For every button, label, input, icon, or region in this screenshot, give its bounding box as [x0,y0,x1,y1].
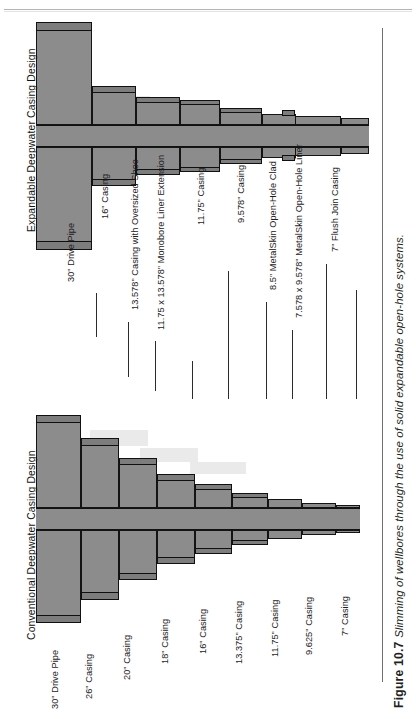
casing-shoe-26in-lower [81,592,119,600]
casing-shoe-18in-upper [157,474,195,481]
label-conventional-20in-casing: 20" Casing [122,635,132,680]
monobore-liner-shoe-upper [180,100,220,105]
casing-shoe-18in-lower [157,557,195,564]
figure-page: Expandable Deepwater Casing Design 30" D… [0,0,416,719]
casing-26in-upper [81,438,119,508]
flush-join-casing-upper [341,118,369,125]
label-conventional-9625in-casing: 9.625" Casing [304,597,314,655]
expandable-casing-diagram [0,0,382,300]
casing-shoe-20in-lower [119,573,157,580]
casing-shoe-30in-lower [36,615,81,623]
label-conventional-16in-casing: 16" Casing [198,609,208,654]
leader-line [192,361,193,399]
label-conventional-30in-drive-pipe: 30" Drive Pipe [50,650,60,709]
metalskin-open-hole-clad-upper [282,110,295,116]
casing-30in-drive-pipe-upper [36,415,81,508]
conventional-panel-title: Conventional Deepwater Casing Design [26,450,37,640]
label-expandable-monobore-liner-extension: 11.75 x 13.578" Monobore Liner Extension [156,155,166,330]
wellbore-axis-bar [36,125,369,147]
casing-shoe-13375in-upper [232,493,268,498]
leader-line [292,330,293,399]
leader-line [228,271,229,399]
flush-join-casing-lower [341,147,369,154]
casing-26in-lower [81,530,119,600]
leader-line [326,264,327,399]
leader-line [155,341,156,391]
label-conventional-1175in-casing: 11.75" Casing [270,600,280,657]
casing-oversized-shoe-upper [136,97,180,103]
shadow [190,462,246,474]
casing-shoe-20in-upper [119,458,157,465]
casing-shoe-16in-upper [195,484,232,490]
leader-line [356,290,357,399]
figure-number: Figure 10.7 [392,638,406,708]
label-conventional-18in-casing: 18" Casing [160,619,170,664]
casing-shoe-30in-lower [36,241,92,250]
casing-20in-upper [119,458,157,508]
label-expandable-metalskin-clad: 8.5" MetalSkin Open-Hole Clad [268,161,278,290]
label-expandable-13578in-oversized-shoe: 13.578" Casing with Oversized Shoe [130,159,140,310]
label-expandable-30in-drive-pipe: 30" Drive Pipe [66,223,76,282]
casing-shoe-16in-upper [92,86,136,93]
casing-shoe-13375in-lower [232,540,268,545]
label-expandable-metalskin-liner: 7.578 x 9.578" MetalSkin Open-Hole Liner [294,144,304,318]
label-expandable-9578in-casing: 9.578" Casing [236,165,246,223]
label-conventional-7in-casing: 7" Casing [340,596,350,636]
label-expandable-flush-join-casing: 7" Flush Join Casing [330,167,340,252]
casing-30in-drive-pipe-upper [36,22,92,125]
casing-shoe-1175in-upper [220,108,262,113]
leader-line [96,293,97,337]
label-conventional-13375in-casing: 13.375" Casing [234,601,244,664]
casing-30in-drive-pipe-lower [36,147,92,250]
caption-divider-rule [382,28,383,682]
metalskin-open-hole-liner-upper [295,116,341,125]
casing-7in-lower [336,530,360,533]
wellbore-axis-bar [36,508,360,530]
label-expandable-1175in-casing: 11.75" Casing [196,168,206,225]
casing-1175in-upper [268,499,302,508]
casing-30in-drive-pipe-lower [36,530,81,623]
label-conventional-26in-casing: 26" Casing [84,654,94,699]
casing-9625in-lower [302,530,336,535]
casing-shoe-16in-lower [195,548,232,554]
casing-shoe-26in-upper [81,438,119,446]
casing-shoe-30in-upper [36,415,81,423]
label-expandable-16in-casing: 16" Casing [100,174,110,219]
casing-shoe-1175in-lower [220,159,262,164]
leader-line [128,322,129,377]
figure-caption-text: Slimming of wellbores through the use of… [393,234,405,638]
figure-caption: Figure 10.7 Slimming of wellbores throug… [392,18,406,708]
expandable-panel-title: Expandable Deepwater Casing Design [26,48,37,232]
casing-1175in-lower [268,530,302,539]
leader-line [266,302,267,399]
casing-shoe-30in-upper [36,22,92,31]
